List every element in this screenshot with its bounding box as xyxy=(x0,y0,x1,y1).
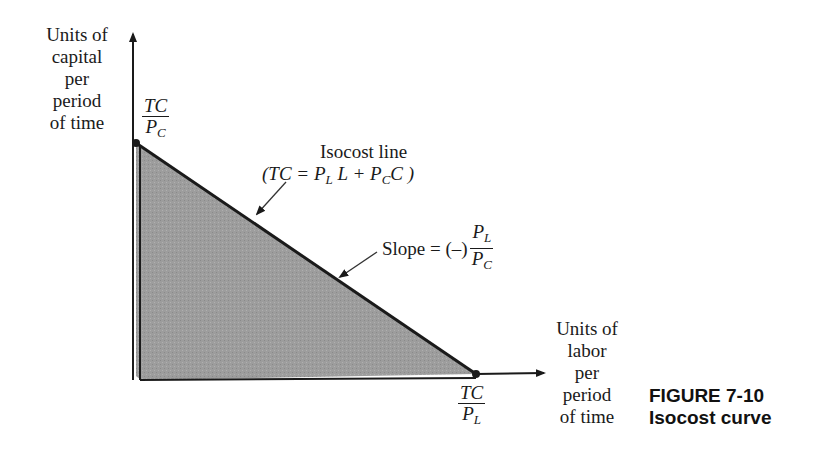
x-intercept-dot xyxy=(472,370,480,378)
figure-number: FIGURE 7-10 xyxy=(649,385,772,407)
y-label-line: per xyxy=(34,68,120,90)
y-axis-label: Units of capital per period of time xyxy=(34,24,120,134)
y-intercept-denominator: PC xyxy=(143,117,167,143)
x-label-line: Units of xyxy=(542,318,632,340)
x-label-line: period xyxy=(542,384,632,406)
slope-annotation: Slope = (–) PL PC xyxy=(382,222,494,275)
x-label-line: labor xyxy=(542,340,632,362)
slope-denominator: PC xyxy=(470,249,494,275)
x-label-line: of time xyxy=(542,406,632,428)
slope-numerator: PL xyxy=(470,222,493,249)
figure-title: Isocost curve xyxy=(649,407,772,429)
slope-prefix: Slope = (–) xyxy=(382,238,468,260)
y-label-line: Units of xyxy=(34,24,120,46)
figure-caption: FIGURE 7-10 Isocost curve xyxy=(649,385,772,429)
y-intercept-numerator: TC xyxy=(142,96,169,117)
x-axis xyxy=(476,373,544,374)
y-label-line: capital xyxy=(34,46,120,68)
isocost-annotation: Isocost line (TC = PL L + PCC ) xyxy=(262,141,414,191)
x-axis-label: Units of labor per period of time xyxy=(542,318,632,428)
isocost-equation: (TC = PL L + PCC ) xyxy=(262,163,414,191)
isocost-title: Isocost line xyxy=(262,141,414,163)
x-intercept-numerator: TC xyxy=(458,383,485,404)
y-label-line: period xyxy=(34,90,120,112)
x-label-line: per xyxy=(542,362,632,384)
x-intercept-denominator: PL xyxy=(460,404,483,430)
slope-pointer xyxy=(340,252,377,277)
y-intercept-dot xyxy=(132,139,140,147)
y-label-line: of time xyxy=(34,112,120,134)
y-intercept-label: TC PC xyxy=(142,96,169,143)
x-intercept-label: TC PL xyxy=(458,383,485,430)
